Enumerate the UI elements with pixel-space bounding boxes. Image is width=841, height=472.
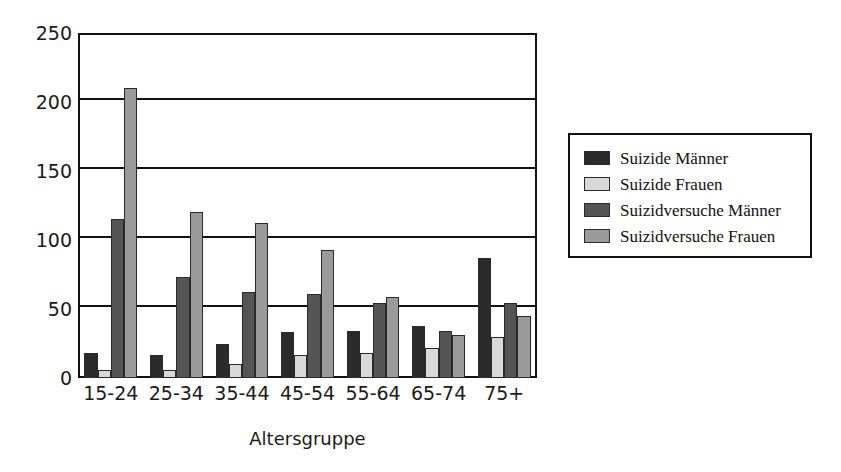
plot-area [78,33,537,378]
y-axis-tick-labels: 050100150200250 [0,33,72,378]
legend-item-label: Suizidversuche Frauen [620,228,775,245]
x-axis-tick: 75+ [484,384,524,403]
x-axis-tick-labels: 15-2425-3435-4445-5455-6465-7475+ [78,384,537,412]
x-axis-tick: 35-44 [214,384,269,403]
x-axis-tick: 45-54 [280,384,335,403]
x-axis-title: Altersgruppe [78,428,537,449]
legend-item: Suizidversuche Frauen [584,223,810,249]
legend-swatch-icon [584,151,610,165]
legend-item-label: Suizide Frauen [620,176,722,193]
gridline [80,236,535,238]
chart-legend: Suizide MännerSuizide FrauenSuizidversuc… [568,133,812,258]
legend-swatch-icon [584,177,610,191]
y-axis-tick: 150 [8,162,72,181]
y-axis-tick: 50 [8,300,72,319]
y-axis-tick: 250 [8,24,72,43]
x-axis-tick: 55-64 [345,384,400,403]
y-axis-tick: 200 [8,93,72,112]
legend-item-label: Suizide Männer [620,150,728,167]
x-axis-tick: 15-24 [83,384,138,403]
legend-item: Suizide Frauen [584,171,810,197]
x-axis-tick: 25-34 [149,384,204,403]
chart-figure: 050100150200250 15-2425-3435-4445-5455-6… [0,0,841,472]
legend-swatch-icon [584,203,610,217]
y-axis-tick: 100 [8,231,72,250]
gridline [80,305,535,307]
legend-item: Suizidversuche Männer [584,197,810,223]
legend-item: Suizide Männer [584,145,810,171]
legend-swatch-icon [584,229,610,243]
gridline [80,98,535,100]
y-axis-tick: 0 [8,369,72,388]
x-axis-tick: 65-74 [411,384,466,403]
gridline [80,167,535,169]
legend-item-label: Suizidversuche Männer [620,202,781,219]
